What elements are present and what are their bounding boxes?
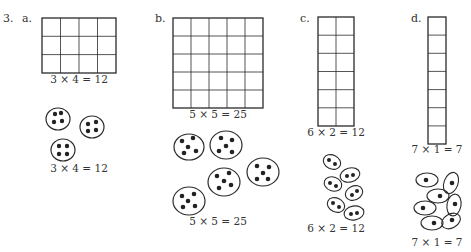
groups-c-equation: 6 × 2 = 12 (300, 222, 372, 234)
group-oval (439, 210, 463, 232)
grid-b-equation: 5 × 5 = 25 (168, 108, 268, 120)
group-oval (339, 166, 362, 185)
group-oval (421, 216, 443, 230)
grid-a (42, 18, 116, 73)
group-oval (416, 173, 438, 187)
group-oval (208, 168, 240, 196)
groups-d-equation: 7 × 1 = 7 (409, 236, 465, 248)
group-oval (414, 201, 436, 215)
group-oval (343, 204, 365, 221)
groups-d (414, 170, 463, 232)
group-oval (210, 131, 242, 159)
groups-b (173, 131, 279, 215)
group-oval (80, 116, 104, 138)
groups-b-equation: 5 × 5 = 25 (168, 215, 268, 227)
group-oval (343, 183, 365, 203)
group-oval (173, 187, 205, 215)
grid-c-equation: 6 × 2 = 12 (300, 126, 372, 138)
group-oval (46, 108, 70, 130)
group-oval (441, 170, 462, 195)
group-oval (247, 158, 279, 186)
grid-c (318, 17, 354, 126)
grid-b (173, 18, 263, 108)
group-oval (51, 139, 75, 161)
group-oval (427, 189, 449, 203)
groups-c (321, 152, 365, 222)
grid-a-equation: 3 × 4 = 12 (42, 73, 116, 85)
grid-d (428, 17, 446, 144)
groups-a (46, 108, 104, 161)
groups-a-equation: 3 × 4 = 12 (42, 162, 116, 174)
grid-d-equation: 7 × 1 = 7 (409, 143, 465, 155)
group-oval (321, 152, 343, 172)
group-oval (174, 134, 204, 160)
